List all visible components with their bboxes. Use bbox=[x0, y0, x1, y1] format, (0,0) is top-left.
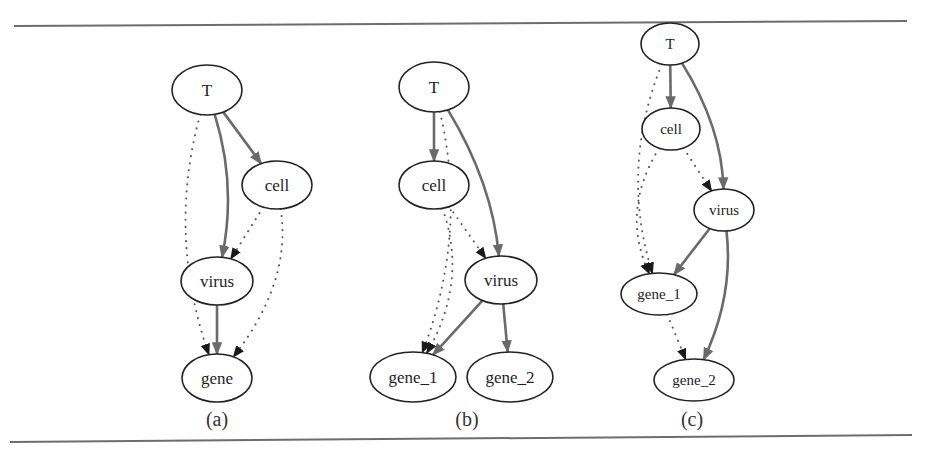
edge-virus-to-gene_1-solid bbox=[433, 301, 482, 355]
edge-virus-to-gene_2-solid bbox=[503, 304, 507, 352]
node-label: cell bbox=[265, 176, 290, 195]
edge-T-to-cell-solid bbox=[223, 112, 261, 163]
edge-cell-to-virus-dotted bbox=[683, 148, 711, 191]
panel-a: Tcellvirusgene(a) bbox=[172, 65, 312, 431]
node-label: gene bbox=[201, 369, 233, 388]
edge-T-to-gene_1-dotted bbox=[422, 112, 450, 353]
edge-gene_1-to-gene_2-dotted bbox=[667, 314, 685, 359]
edge-cell-to-virus-dotted bbox=[449, 207, 485, 259]
node-virus: virus bbox=[465, 256, 537, 304]
top-rule bbox=[14, 21, 907, 26]
node-label: T bbox=[202, 81, 213, 100]
node-label: virus bbox=[200, 272, 234, 291]
diagram-panels: Tcellvirusgene(a)Tcellvirusgene_1gene_2(… bbox=[172, 23, 754, 431]
node-label: gene_1 bbox=[388, 368, 437, 387]
node-gene-1: gene_1 bbox=[621, 273, 697, 315]
panel-c: Tcellvirusgene_1gene_2(c) bbox=[621, 23, 754, 431]
node-cell: cell bbox=[399, 161, 469, 209]
bottom-rule bbox=[10, 435, 912, 442]
caption-a: (a) bbox=[206, 408, 228, 431]
caption-b: (b) bbox=[455, 408, 478, 431]
node-T: T bbox=[399, 62, 469, 112]
node-label: gene_2 bbox=[485, 368, 534, 387]
node-gene-2: gene_2 bbox=[467, 352, 553, 402]
edge-cell-to-virus-dotted bbox=[231, 207, 263, 259]
node-label: T bbox=[665, 36, 674, 52]
node-gene-1: gene_1 bbox=[370, 352, 456, 402]
edge-virus-to-gene_2-solid bbox=[704, 231, 728, 360]
edge-T-to-gene_1-dotted bbox=[638, 64, 662, 273]
node-label: virus bbox=[484, 271, 518, 290]
edge-virus-to-gene_1-solid bbox=[674, 228, 710, 274]
caption-c: (c) bbox=[681, 408, 703, 431]
node-label: cell bbox=[422, 176, 447, 195]
node-virus: virus bbox=[181, 257, 253, 305]
node-virus: virus bbox=[694, 189, 754, 231]
node-label: virus bbox=[709, 202, 739, 218]
figure-canvas: Tcellvirusgene(a)Tcellvirusgene_1gene_2(… bbox=[0, 0, 927, 464]
edge-T-to-cell-solid bbox=[670, 65, 671, 108]
edge-cell-to-gene_1-dotted bbox=[637, 148, 659, 274]
edge-T-to-virus-solid bbox=[215, 114, 228, 257]
edge-cell-to-gene_1-dotted bbox=[427, 208, 453, 353]
edge-T-to-gene-dotted bbox=[186, 115, 209, 355]
node-gene: gene bbox=[182, 354, 252, 402]
node-label: gene_1 bbox=[637, 286, 680, 302]
node-cell: cell bbox=[242, 161, 312, 209]
node-label: gene_2 bbox=[672, 372, 715, 388]
node-T: T bbox=[172, 65, 242, 115]
node-T: T bbox=[641, 23, 699, 65]
node-cell: cell bbox=[642, 108, 700, 150]
node-label: T bbox=[429, 78, 440, 97]
node-label: cell bbox=[660, 121, 682, 137]
node-gene-2: gene_2 bbox=[654, 359, 734, 401]
panel-b: Tcellvirusgene_1gene_2(b) bbox=[370, 62, 553, 431]
edges bbox=[186, 112, 283, 357]
edges bbox=[422, 110, 507, 355]
